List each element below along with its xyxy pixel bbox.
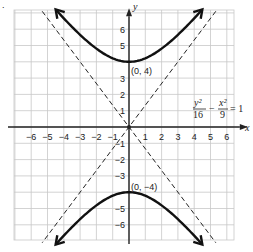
equation-rhs: = 1 [230,103,243,114]
x-tick-label: 2 [159,132,164,142]
x-tick-label: 5 [208,132,213,142]
x-tick-label: −5 [42,132,52,142]
equation-label: y² 16 − x² 9 = 1 [193,97,243,120]
x-tick-label: −2 [91,132,101,142]
x-tick-label: −6 [26,132,36,142]
y-tick-label: −5 [115,204,125,214]
y-tick-label: 3 [120,74,125,84]
vertex-label-upper: (0, 4) [131,66,152,76]
y-tick-label: 2 [120,90,125,100]
equation-minus: − [209,103,215,114]
y-tick-label: 5 [120,41,125,51]
y-tick-label: −2 [115,155,125,165]
equation-den2: 9 [220,109,225,120]
y-tick-label: −6 [115,220,125,230]
x-tick-label: −3 [75,132,85,142]
y-tick-label: −1 [115,139,125,149]
equation-den1: 16 [193,109,203,120]
x-tick-label: −4 [59,132,69,142]
x-tick-label: 6 [224,132,229,142]
x-tick-label: 4 [192,132,197,142]
figure-marker: . [2,0,5,10]
hyperbola-plot: −6−5−4−3−2−1123456−6−5−3−2−112356 . y x … [0,0,253,252]
y-tick-label: 6 [120,25,125,35]
y-axis-label: y [132,1,138,12]
y-tick-label: 1 [120,106,125,116]
equation-num1: y² [193,97,202,108]
y-tick-label: −3 [115,171,125,181]
x-tick-label: 1 [143,132,148,142]
x-axis-label: x [244,122,250,133]
vertex-label-lower: (0, −4) [131,182,157,192]
x-tick-label: 3 [175,132,180,142]
equation-num2: x² [218,97,227,108]
